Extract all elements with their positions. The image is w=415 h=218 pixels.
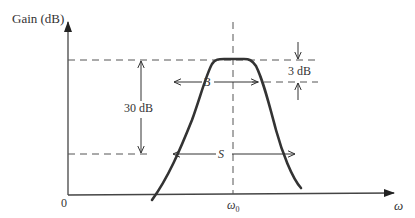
skirt-label: S [218, 147, 224, 161]
x-axis [68, 193, 394, 195]
bandwidth-label: B [203, 75, 211, 89]
x-axis-label: ω [394, 198, 403, 213]
bandpass-gain-diagram: Gain (dB) 0 ω ω0 B 3 dB S 30 dB [0, 0, 415, 218]
30db-label: 30 dB [124, 101, 153, 115]
center-frequency-label: ω0 [227, 198, 239, 214]
y-axis-label: Gain (dB) [12, 11, 64, 26]
origin-label: 0 [61, 196, 67, 210]
3db-label: 3 dB [288, 64, 311, 78]
gain-response-curve [152, 59, 301, 200]
